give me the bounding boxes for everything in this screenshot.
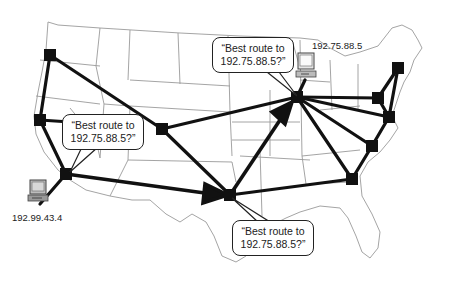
callout-line1: “Best route to <box>69 119 137 132</box>
destination-ip-label: 192.75.88.5 <box>312 40 362 51</box>
callout-line2: 192.75.88.5?” <box>69 132 137 145</box>
callout-line1: “Best route to <box>219 42 287 55</box>
desktop-computer-icon <box>296 53 316 77</box>
source-ip-label: 192.99.43.4 <box>12 212 62 223</box>
callout-north: “Best route to 192.75.88.5?” <box>212 37 294 73</box>
arrowhead-icon <box>272 102 292 124</box>
callout-line2: 192.75.88.5?” <box>239 238 307 251</box>
callout-west: “Best route to 192.75.88.5?” <box>62 114 144 150</box>
callout-line2: 192.75.88.5?” <box>219 55 287 68</box>
callout-line1: “Best route to <box>239 225 307 238</box>
network-map-diagram: “Best route to 192.75.88.5?” “Best route… <box>0 0 471 281</box>
desktop-computer-icon <box>28 180 48 201</box>
callout-south: “Best route to 192.75.88.5?” <box>232 220 314 256</box>
